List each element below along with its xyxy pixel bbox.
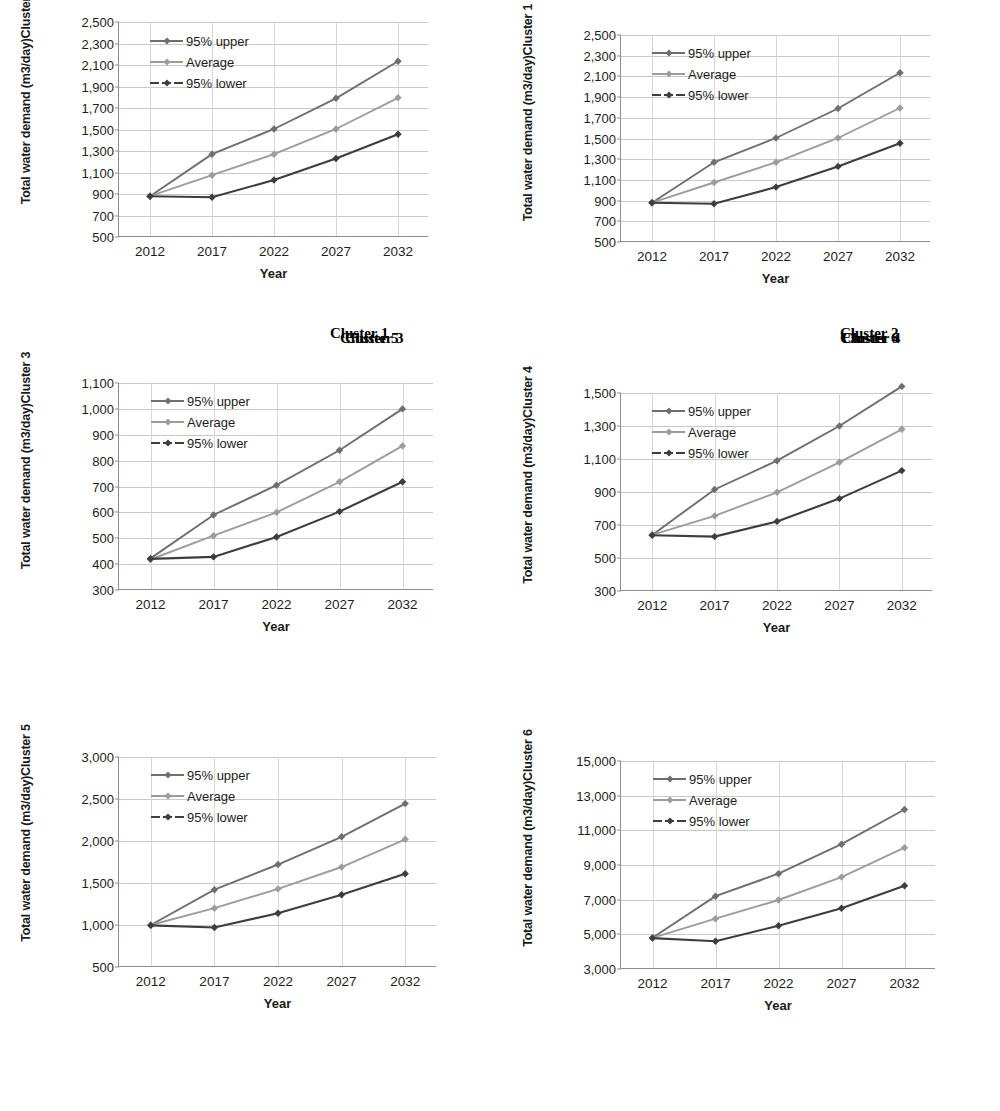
series-marker: [402, 836, 409, 843]
series-marker: [712, 915, 719, 922]
y-axis-title-line2: Cluster 1: [521, 4, 535, 56]
y-axis-tick-label: 2,100: [81, 58, 119, 73]
plot-area: 5007009001,1001,3001,5001,7001,9002,1002…: [620, 35, 930, 242]
series-marker: [901, 844, 908, 851]
figure-caption: Cluster 6: [840, 330, 898, 347]
series-line: [151, 874, 405, 928]
series-marker: [772, 183, 779, 190]
x-axis-tick-label: 2027: [824, 598, 854, 613]
series-marker: [338, 833, 345, 840]
series-marker: [399, 478, 406, 485]
legend-item-upper: 95% upper: [652, 402, 751, 420]
legend: 95% upperAverage95% lower: [653, 770, 752, 830]
legend-label-upper: 95% upper: [689, 772, 752, 787]
y-axis-title-text: Total water demand (m3/day)Cluster 1: [508, 0, 548, 231]
y-axis-tick-label: 1,300: [583, 419, 621, 434]
legend-item-average: Average: [150, 53, 249, 71]
series-marker: [211, 905, 218, 912]
y-axis-tick-label: 2,300: [583, 48, 621, 63]
chart-cell-5: Total water demand (m3/day)Cluster 55001…: [0, 735, 480, 1111]
series-marker: [898, 426, 905, 433]
legend-swatch-lower: [653, 815, 686, 827]
legend: 95% upperAverage95% lower: [150, 32, 249, 92]
x-axis-tick-label: 2022: [763, 976, 793, 991]
y-axis-tick-label: 1,700: [583, 110, 621, 125]
plot-area: 3,0005,0007,0009,00011,00013,00015,00020…: [620, 761, 935, 969]
series-marker: [773, 489, 780, 496]
series-marker: [273, 482, 280, 489]
y-axis-title-line1: Total water demand (m3/day): [19, 38, 33, 204]
legend-swatch-lower: [151, 811, 184, 823]
x-axis-tick-label: 2022: [263, 974, 293, 989]
x-axis-tick-label: 2022: [259, 244, 289, 259]
figure-caption: Cluster 5: [340, 330, 398, 347]
y-axis-title-line1: Total water demand (m3/day): [521, 781, 535, 947]
series-marker: [838, 905, 845, 912]
series-marker: [270, 176, 277, 183]
y-axis-tick-label: 7,000: [583, 892, 621, 907]
series-marker: [773, 457, 780, 464]
legend-item-lower: 95% lower: [652, 444, 751, 462]
x-axis-tick-label: 2032: [390, 974, 420, 989]
y-axis-tick-label: 1,100: [583, 452, 621, 467]
series-marker: [836, 459, 843, 466]
legend-swatch-lower: [150, 77, 183, 89]
series-marker: [773, 518, 780, 525]
legend-item-average: Average: [652, 65, 751, 83]
legend-swatch-upper: [151, 769, 184, 781]
y-axis-tick-label: 1,700: [81, 101, 119, 116]
legend: 95% upperAverage95% lower: [652, 44, 751, 104]
series-marker: [274, 861, 281, 868]
series-marker: [273, 533, 280, 540]
y-axis-title-text: Total water demand (m3/day)Cluster 4: [508, 361, 548, 589]
x-axis-tick-label: 2027: [321, 244, 351, 259]
x-axis-tick-label: 2027: [826, 976, 856, 991]
y-axis-tick-label: 2,000: [81, 834, 119, 849]
series-marker: [210, 553, 217, 560]
x-axis-tick-label: 2032: [885, 249, 915, 264]
series-marker: [338, 863, 345, 870]
chart-6: Total water demand (m3/day)Cluster 63,00…: [480, 735, 960, 1100]
series-marker: [332, 155, 339, 162]
legend-label-upper: 95% upper: [186, 34, 249, 49]
x-axis-tick-label: 2012: [135, 244, 165, 259]
y-axis-tick-label: 2,500: [583, 28, 621, 43]
series-marker: [775, 896, 782, 903]
plot-area: 3004005006007008009001,0001,100201220172…: [118, 383, 433, 590]
y-axis-tick-label: 1,000: [81, 918, 119, 933]
legend-item-lower: 95% lower: [652, 86, 751, 104]
x-axis-tick-label: 2017: [198, 597, 228, 612]
chart-3: Total water demand (m3/day)Cluster 33004…: [0, 365, 480, 730]
legend-item-upper: 95% upper: [151, 392, 250, 410]
series-marker: [710, 200, 717, 207]
legend-label-average: Average: [689, 793, 737, 808]
x-axis-tick-label: 2032: [887, 598, 917, 613]
legend-swatch-average: [150, 56, 183, 68]
chart-cell-1: Total water demand (m3/day)Cluster 25007…: [0, 0, 480, 365]
series-marker: [208, 194, 215, 201]
series-marker: [338, 891, 345, 898]
legend-label-upper: 95% upper: [187, 394, 250, 409]
y-axis-tick-label: 1,100: [583, 172, 621, 187]
chart-2: Total water demand (m3/day)Cluster 15007…: [480, 0, 960, 365]
series-marker: [901, 882, 908, 889]
y-axis-tick-label: 1,900: [81, 79, 119, 94]
x-axis-tick-label: 2027: [327, 974, 357, 989]
series-line: [151, 446, 403, 560]
series-marker: [772, 159, 779, 166]
y-axis-title: Total water demand (m3/day)Cluster 3: [6, 379, 46, 616]
series-line: [151, 482, 403, 559]
series-marker: [775, 922, 782, 929]
legend-swatch-upper: [151, 395, 184, 407]
x-axis-tick-label: 2027: [324, 597, 354, 612]
legend-label-upper: 95% upper: [688, 46, 751, 61]
legend-label-lower: 95% lower: [187, 810, 248, 825]
legend-label-lower: 95% lower: [186, 76, 247, 91]
series-marker: [896, 140, 903, 147]
legend-item-upper: 95% upper: [151, 766, 250, 784]
x-axis-tick-label: 2017: [699, 249, 729, 264]
y-axis-tick-label: 1,500: [583, 131, 621, 146]
y-axis-title-line1: Total water demand (m3/day): [521, 418, 535, 584]
y-axis-tick-label: 2,500: [81, 15, 119, 30]
chart-4: Total water demand (m3/day)Cluster 43005…: [480, 365, 960, 730]
